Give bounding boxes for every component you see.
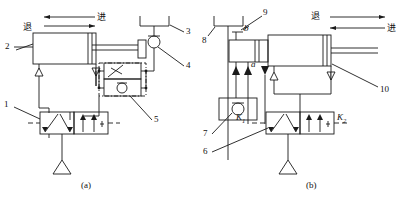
leader-4 [158,47,184,66]
port-label-b: b [244,24,249,33]
check-valve-a [148,36,160,71]
callout-5: 5 [154,115,159,124]
k2-subscript: 2 [343,117,346,124]
flow-triangle-b-1 [232,66,240,75]
leader-6 [212,128,268,152]
leader-8 [208,27,215,36]
motion-label-advance-b: 进 [387,21,396,34]
motion-arrow-retract-b [330,15,385,19]
subfigure-caption-b: (b) [306,180,317,190]
callout-4: 4 [186,61,191,70]
callout-6: 6 [203,147,208,156]
motion-arrow-advance-a [44,15,95,19]
callout-10: 10 [380,85,389,94]
leader-3 [170,25,184,32]
motion-label-retract-b: 退 [311,9,320,22]
figure-root: 退 进 2 1 3 4 5 (a) 退 进 b a 8 9 10 7 6 K1 … [0,0,419,202]
leader-10 [332,64,378,87]
motion-label-advance-a: 进 [97,10,106,23]
directional-valve-a [28,112,120,134]
flow-triangle-b-4 [265,66,269,75]
valve-signal-k1: K1 [236,113,245,124]
flow-triangle-a-front-1 [92,68,96,76]
muffler-b [214,16,243,36]
directional-valve-b [252,112,350,134]
flow-triangle-a-rear [35,68,43,76]
callout-2: 2 [5,42,10,51]
leader-1 [14,107,40,119]
air-supply-b [279,160,297,174]
one-way-throttle-valve-a [99,63,146,96]
leader-7 [212,113,232,134]
motion-arrow-retract-a [44,24,95,28]
motion-label-retract-a: 退 [23,20,32,33]
subfigure-caption-a: (a) [81,180,91,190]
port-label-a: a [251,60,256,69]
schematic-canvas [0,0,419,202]
valve-signal-k2: K2 [337,113,346,124]
flow-triangle-b-7 [331,72,335,80]
callout-3: 3 [186,27,191,36]
muffler-a [140,16,169,36]
flow-triangle-b-3 [261,66,265,75]
flow-triangle-b-5 [270,72,278,80]
cylinder-a [14,33,146,64]
motion-arrow-advance-b [330,26,385,30]
flow-triangle-b-6 [327,72,331,80]
callout-7: 7 [203,129,208,138]
callout-1: 1 [4,100,9,109]
callout-9: 9 [263,8,268,17]
callout-8: 8 [202,36,207,45]
k1-subscript: 1 [242,117,245,124]
air-supply-a [53,160,71,174]
leader-5 [130,96,152,120]
